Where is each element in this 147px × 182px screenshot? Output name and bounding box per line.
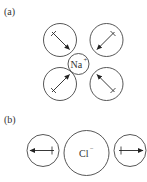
dipole-molecule-lower-right xyxy=(90,68,123,101)
dipole-arrow-icon xyxy=(52,32,70,50)
dipole-molecule-right xyxy=(114,135,146,167)
ion-charge: + xyxy=(84,56,88,63)
ion-charge: − xyxy=(90,145,94,152)
dipole-arrow-icon xyxy=(97,32,115,50)
panel-b-label: (b) xyxy=(4,114,16,126)
panel-a-label: (a) xyxy=(4,6,15,18)
panel-a: (a) Na + xyxy=(4,6,123,101)
dipole-arrow-icon xyxy=(97,75,115,93)
ion-solvation-diagram: (a) Na + xyxy=(0,0,147,182)
dipole-molecule-upper-right xyxy=(90,24,123,57)
dipole-molecule-left xyxy=(27,135,59,167)
dipole-molecule-lower-left xyxy=(44,68,77,101)
ion-symbol: Na xyxy=(71,59,83,70)
panel-b: (b) Cl − xyxy=(4,114,146,176)
dipole-molecule-upper-left xyxy=(44,24,77,57)
central-ion-chloride: Cl − xyxy=(64,131,109,176)
dipole-arrow-icon xyxy=(52,75,70,93)
ion-symbol: Cl xyxy=(79,148,89,159)
